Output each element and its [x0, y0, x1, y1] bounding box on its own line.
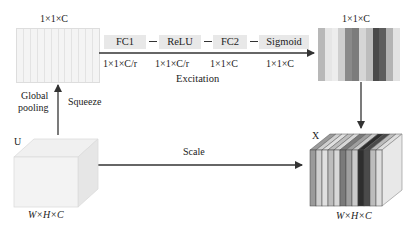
- diagram-graphics: [0, 0, 412, 237]
- input-tensor-cube: [14, 139, 98, 207]
- output-tensor-cube: [310, 134, 402, 206]
